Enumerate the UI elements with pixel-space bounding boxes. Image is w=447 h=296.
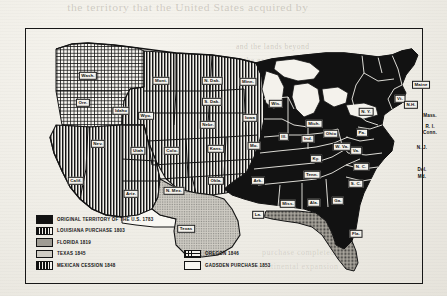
map-label-iowa: Iowa [242, 114, 257, 122]
legend-item-florida: FLORIDA 1819 [36, 238, 91, 247]
map-label-tenn: Tenn. [304, 171, 321, 179]
map-label-ala: Ala. [307, 199, 320, 207]
map-label-fla: Fla. [350, 230, 363, 238]
map-label-va: Va. [350, 147, 362, 155]
legend-swatch-oregon [184, 250, 201, 259]
map-canvas: Wash.Ore.IdahoMont.N. Dak.S. Dak.Minn.Wy… [26, 29, 422, 283]
map-label-nebr: Nebr. [200, 121, 216, 129]
map-label-wis: Wis. [269, 100, 283, 108]
legend-label-texas: TEXAS 1845 [57, 251, 86, 256]
map-label-ill: Ill. [279, 133, 289, 141]
legend-label-louisiana-purchase: LOUISIANA PURCHASE 1803 [57, 228, 125, 233]
legend-swatch-mexican-cession [36, 261, 53, 270]
map-label-colo: Colo. [164, 147, 180, 155]
map-label-conn: Conn. [423, 130, 437, 135]
legend-swatch-texas [36, 250, 53, 259]
legend-row: MEXICAN CESSION 1848GADSDEN PURCHASE 185… [36, 261, 336, 273]
map-label-md: Md. [418, 174, 426, 179]
map-label-n-h: N.H. [404, 101, 418, 109]
legend-label-mexican-cession: MEXICAN CESSION 1848 [57, 263, 116, 268]
map-label-ky: Ky. [310, 155, 322, 163]
map-label-s-c: S. C. [348, 180, 363, 188]
map-label-miss: Miss. [280, 200, 296, 208]
map-label-minn: Minn. [240, 78, 257, 86]
map-label-kans: Kans. [207, 145, 224, 153]
map-label-utah: Utah [130, 147, 145, 155]
map-label-n-j: N. J. [417, 145, 427, 150]
legend-item-mexican-cession: MEXICAN CESSION 1848 [36, 261, 116, 270]
map-label-r-i: R. I. [425, 124, 434, 129]
map-label-w-va: W. Va. [333, 143, 351, 151]
legend-item-original-territory: ORIGINAL TERRITORY OF THE U.S. 1783 [36, 215, 154, 224]
legend-item-oregon: OREGON 1846 [184, 250, 239, 259]
map-label-mont: Mont. [152, 77, 169, 85]
legend-item-gadsden-purchase: GADSDEN PURCHASE 1853 [184, 261, 271, 270]
map-label-idaho: Idaho [112, 107, 129, 115]
map-label-wash: Wash. [79, 72, 97, 80]
map-label-ark: Ark. [251, 177, 265, 185]
legend-label-florida: FLORIDA 1819 [57, 240, 91, 245]
map-label-okla: Okla. [208, 177, 224, 185]
map-label-n-mex: N. Mex. [163, 187, 184, 195]
region-mexican-cession-1848 [50, 125, 160, 217]
legend-label-original-territory: ORIGINAL TERRITORY OF THE U.S. 1783 [57, 217, 154, 222]
map-figure-frame: Wash.Ore.IdahoMont.N. Dak.S. Dak.Minn.Wy… [25, 28, 423, 284]
map-label-mass: Mass. [423, 113, 437, 118]
map-label-ind: Ind. [301, 135, 314, 143]
legend-row: FLORIDA 1819 [36, 238, 336, 250]
map-label-wyo: Wyo. [138, 112, 154, 120]
legend-label-oregon: OREGON 1846 [205, 251, 239, 256]
map-label-ga: Ga. [332, 197, 344, 205]
map-label-ariz: Ariz. [123, 190, 138, 198]
map-label-maine: Maine [412, 81, 430, 89]
map-label-mich: Mich. [306, 120, 323, 128]
map-legend: ORIGINAL TERRITORY OF THE U.S. 1783LOUIS… [36, 215, 336, 273]
map-label-ore: Ore. [76, 99, 90, 107]
map-label-ohio: Ohio [323, 130, 338, 138]
legend-item-louisiana-purchase: LOUISIANA PURCHASE 1803 [36, 227, 125, 236]
map-label-nev: Nev. [91, 140, 105, 148]
map-label-n-c: N. C. [353, 163, 369, 171]
legend-label-gadsden-purchase: GADSDEN PURCHASE 1853 [205, 263, 271, 268]
legend-swatch-original-territory [36, 215, 53, 224]
legend-item-texas: TEXAS 1845 [36, 250, 86, 259]
map-label-mo: Mo. [248, 142, 261, 150]
legend-swatch-louisiana-purchase [36, 227, 53, 236]
legend-row: TEXAS 1845OREGON 1846 [36, 250, 336, 262]
legend-row: LOUISIANA PURCHASE 1803 [36, 227, 336, 239]
legend-row: ORIGINAL TERRITORY OF THE U.S. 1783 [36, 215, 336, 227]
map-label-calif: Calif. [68, 177, 84, 185]
map-label-n-dak: N. Dak. [202, 77, 223, 85]
legend-swatch-florida [36, 238, 53, 247]
map-label-del: Del. [417, 167, 426, 172]
map-label-pa: Pa. [356, 129, 368, 137]
map-label-s-dak: S. Dak. [202, 98, 222, 106]
legend-swatch-gadsden-purchase [184, 261, 201, 270]
map-label-n-y: N. Y. [359, 108, 374, 116]
